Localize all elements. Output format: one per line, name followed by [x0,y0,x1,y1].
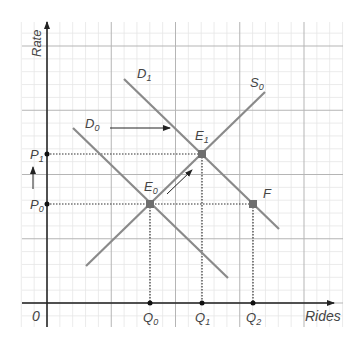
p0-label-text: P [30,197,39,212]
p0-dot [45,202,50,207]
f-label-text: F [263,186,271,201]
q1-label-sub: 1 [205,317,210,327]
point-e1 [198,150,206,158]
y-axis-label: Rate [30,30,43,57]
origin-label-text: 0 [32,308,40,324]
e0-label-sub: 0 [153,186,158,196]
q2-dot [251,301,256,306]
price-label-p1: P1 [30,148,44,164]
d1-label-text: D [137,66,146,81]
x-axis-label-text: Rides [305,308,341,324]
curve-label-d0: D0 [85,117,99,133]
p1-label-sub: 1 [39,154,44,164]
quantity-label-q0: Q0 [143,311,158,327]
q0-dot [148,301,153,306]
point-label-f: F [263,187,271,200]
price-label-p0: P0 [30,198,44,214]
s0-label-sub: 0 [259,82,264,92]
curve-label-d1: D1 [137,67,151,83]
shift-arrows [33,128,192,194]
quantity-label-q1: Q1 [195,311,210,327]
grid-major [22,22,343,327]
point-f [249,200,257,208]
curve-label-s0: S0 [250,76,264,92]
x-axis-label: Rides [305,309,341,323]
s0-label-text: S [250,75,259,90]
d1-label-sub: 1 [146,73,151,83]
point-label-e0: E0 [144,180,158,196]
supply-demand-diagram [0,0,361,343]
origin-label: 0 [32,309,40,323]
e1-label-text: E [195,128,204,143]
q0-label-text: Q [143,310,153,325]
e0-label-text: E [144,179,153,194]
p1-label-text: P [30,147,39,162]
e1-label-sub: 1 [204,135,209,145]
p0-label-sub: 0 [39,204,44,214]
d0-label-sub: 0 [94,123,99,133]
p1-dot [45,152,50,157]
q2-label-sub: 2 [256,317,261,327]
point-label-e1: E1 [195,129,209,145]
point-e0 [146,200,154,208]
q1-dot [200,301,205,306]
q2-label-text: Q [246,310,256,325]
q1-label-text: Q [195,310,205,325]
y-axis-label-text: Rate [29,30,44,57]
d0-label-text: D [85,116,94,131]
quantity-label-q2: Q2 [246,311,261,327]
q0-label-sub: 0 [153,317,158,327]
